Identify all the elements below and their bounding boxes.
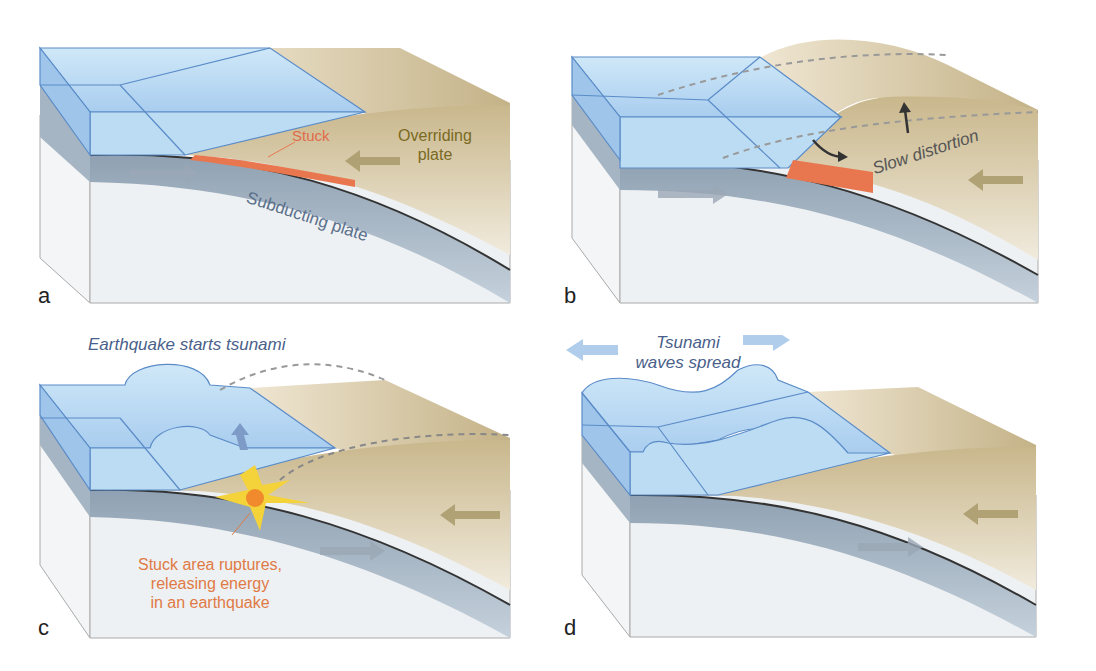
label-rupture-line2: releasing energy <box>110 574 310 593</box>
caption-tsunami-waves-spread: Tsunami waves spread <box>613 333 763 373</box>
label-rupture-line3: in an earthquake <box>110 593 310 612</box>
panel-b: b Slow distortion <box>548 0 1096 335</box>
panel-d: Tsunami waves spread d <box>548 335 1096 670</box>
caption-tsunami-line1: Tsunami <box>613 333 763 353</box>
panel-label-b: b <box>564 283 576 309</box>
panel-label-c: c <box>38 615 49 641</box>
caption-tsunami-line2: waves spread <box>613 353 763 373</box>
label-overriding-line1: Overriding <box>380 126 490 145</box>
subduction-diagram-b <box>548 0 1096 335</box>
subduction-diagram-d <box>548 335 1096 671</box>
label-rupture-note: Stuck area ruptures, releasing energy in… <box>110 555 310 612</box>
label-rupture-line1: Stuck area ruptures, <box>110 555 310 574</box>
subduction-diagram-a <box>0 0 548 335</box>
subduction-diagram-c <box>0 335 548 671</box>
panel-c: Earthquake starts tsunami Stuck area rup… <box>0 335 548 670</box>
caption-earthquake-starts-tsunami: Earthquake starts tsunami <box>88 335 285 355</box>
label-overriding-line2: plate <box>380 145 490 164</box>
panel-label-a: a <box>38 283 50 309</box>
panel-label-d: d <box>564 615 576 641</box>
panel-a: a Stuck Overriding plate Subducting plat… <box>0 0 548 335</box>
label-stuck: Stuck <box>292 127 330 144</box>
label-overriding-plate: Overriding plate <box>380 126 490 164</box>
